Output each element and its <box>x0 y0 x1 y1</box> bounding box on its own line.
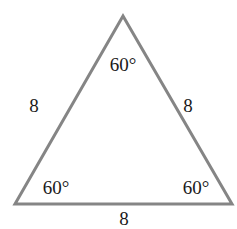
angle-label-top: 60° <box>110 54 137 75</box>
angle-label-bottom-left: 60° <box>43 177 70 198</box>
triangle-diagram: 60° 60° 60° 8 8 8 <box>0 0 237 229</box>
side-label-left: 8 <box>29 95 39 116</box>
triangle-shape <box>15 16 232 204</box>
angle-label-bottom-right: 60° <box>183 177 210 198</box>
side-label-bottom: 8 <box>119 208 129 229</box>
side-label-right: 8 <box>183 95 193 116</box>
